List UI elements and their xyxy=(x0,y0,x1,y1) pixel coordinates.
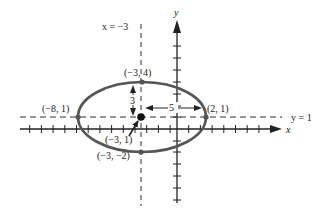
horizontal-semi-axis-label: 5 xyxy=(169,102,174,113)
point-center xyxy=(137,113,145,121)
vertical-line-label: x = −3 xyxy=(102,21,128,32)
y-axis-label: y xyxy=(173,7,179,18)
point-left-vertex xyxy=(75,114,80,119)
label-left-vertex: (−8, 1) xyxy=(42,103,69,115)
vertical-semi-axis-label: 3 xyxy=(130,95,135,106)
ellipse-diagram: x y 3 xyxy=(0,0,331,215)
point-top-vertex xyxy=(139,79,144,84)
horizontal-line-label: y = 1 xyxy=(291,112,312,123)
point-bottom-vertex xyxy=(138,149,143,154)
label-center: (−3, 1) xyxy=(105,134,132,146)
label-bottom-vertex: (−3, −2) xyxy=(97,150,130,162)
label-right-vertex: (2, 1) xyxy=(207,103,229,115)
x-axis xyxy=(20,125,282,133)
x-axis-label: x xyxy=(285,124,291,135)
point-right-vertex xyxy=(203,114,208,119)
label-top-vertex: (−3, 4) xyxy=(124,67,151,79)
